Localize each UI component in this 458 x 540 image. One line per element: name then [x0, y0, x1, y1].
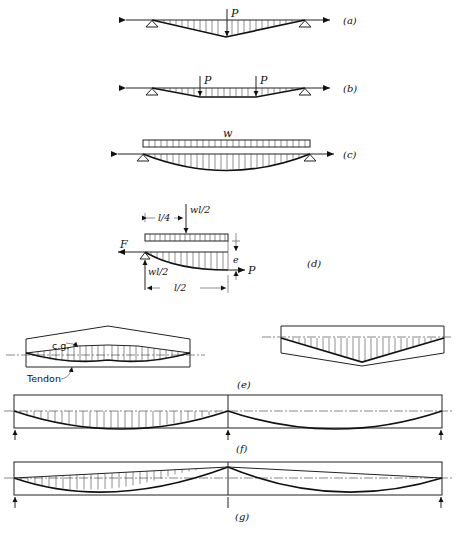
tendon-profile [152, 88, 305, 97]
uniform-load-block [145, 234, 228, 241]
panel-g: (g) [4, 462, 454, 522]
panel-e: c.g. Tendon (e) [6, 326, 452, 390]
load-label-P2: P [259, 74, 268, 87]
panel-f: (f) [4, 395, 454, 454]
hatching [149, 154, 305, 169]
tendon-span-1 [14, 411, 228, 429]
tendon-label: Tendon [26, 373, 61, 384]
load-label-P1: P [203, 74, 212, 87]
panel-label-g: (g) [235, 511, 249, 522]
eccentricity-label: e [233, 254, 239, 265]
resultant-label: wl/2 [190, 204, 210, 215]
tendon-profile [152, 20, 305, 37]
panel-label-a: (a) [343, 15, 357, 26]
tendon-span-2 [228, 467, 442, 492]
panel-d: l/4 wl/2 F P [118, 204, 321, 293]
figure-caption [2, 526, 456, 538]
prestress-P-label: P [247, 264, 256, 277]
uniform-load-hatching [149, 140, 305, 147]
panel-label-e: (e) [237, 379, 251, 390]
cg-label: c.g. [52, 340, 69, 351]
dim-label-half-span: l/2 [174, 282, 186, 293]
load-label-P: P [230, 7, 239, 20]
chord-line [228, 467, 442, 478]
panel-b: P P (b) [126, 74, 357, 97]
panel-label-b: (b) [343, 83, 357, 94]
tendon-leader [61, 367, 72, 379]
force-F-label: F [119, 238, 128, 251]
dim-label-quarter-span: l/4 [158, 212, 170, 223]
tendon-profile-left [26, 353, 190, 361]
tendon-span-1 [14, 467, 228, 492]
panel-label-d: (d) [307, 258, 321, 269]
panel-label-f: (f) [236, 443, 248, 454]
load-label-w: w [223, 127, 233, 140]
tendon-profile [143, 154, 310, 171]
panel-a: P (a) [126, 7, 357, 37]
reaction-label: wl/2 [148, 266, 168, 277]
prestressed-beam-diagram: P (a) P P (b) [0, 0, 458, 540]
uniform-load-block [143, 140, 310, 147]
panel-c: w (c) [118, 127, 357, 171]
tendon-span-2 [228, 411, 442, 429]
hatching [158, 20, 298, 36]
cg-curve [26, 345, 190, 353]
panel-label-c: (c) [343, 149, 357, 160]
tendon-profile-right [281, 338, 444, 362]
